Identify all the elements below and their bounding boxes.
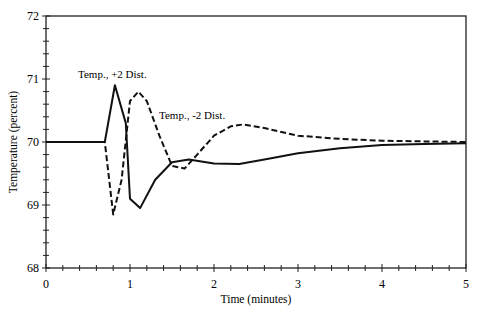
chart: 0123456869707172 Time (minutes) Temperat… xyxy=(0,0,477,317)
y-tick-label: 72 xyxy=(27,9,39,23)
axis-labels: 0123456869707172 xyxy=(27,9,469,291)
x-tick-label: 3 xyxy=(295,277,301,291)
annotation-plus2: Temp., +2 Dist. xyxy=(78,68,147,80)
y-axis-title: Temperature (percent) xyxy=(7,91,20,193)
x-tick-label: 1 xyxy=(127,277,133,291)
y-tick-label: 71 xyxy=(27,72,39,86)
x-tick-label: 5 xyxy=(463,277,469,291)
x-tick-label: 4 xyxy=(379,277,385,291)
y-tick-label: 68 xyxy=(27,261,39,275)
x-tick-label: 0 xyxy=(43,277,49,291)
y-tick-label: 70 xyxy=(27,135,39,149)
x-axis-title: Time (minutes) xyxy=(221,293,292,306)
x-tick-label: 2 xyxy=(211,277,217,291)
plot-frame xyxy=(46,16,466,268)
y-tick-label: 69 xyxy=(27,198,39,212)
annotation-minus2: Temp., -2 Dist. xyxy=(159,109,225,121)
plot-border xyxy=(46,16,466,268)
series-minus2-dist xyxy=(46,92,466,215)
series-lines xyxy=(46,85,466,214)
series-plus2-dist xyxy=(46,85,466,208)
